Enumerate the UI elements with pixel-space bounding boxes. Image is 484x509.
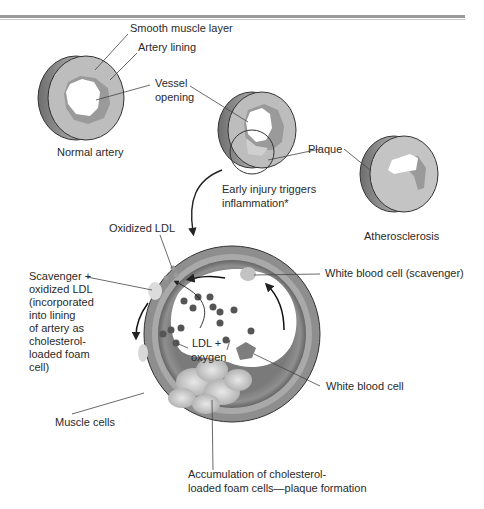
label-artery-lining: Artery lining (138, 41, 196, 54)
label-muscle-cells: Muscle cells (55, 416, 115, 429)
label-plaque: Plaque (308, 143, 342, 156)
label-scavenger-6: cholesterol- (29, 335, 86, 348)
label-accumulation-2: loaded foam cells—plaque formation (188, 482, 367, 495)
label-smooth-muscle-layer: Smooth muscle layer (130, 22, 233, 35)
label-normal-artery: Normal artery (57, 146, 124, 159)
label-early-injury-1: Early injury triggers (222, 183, 316, 196)
atherosclerosis-diagram (0, 0, 484, 509)
label-scavenger-1: Scavenger + (29, 270, 91, 283)
label-white-blood-cell: White blood cell (326, 380, 404, 393)
label-scavenger-3: (incorporated (29, 296, 94, 309)
label-oxidized-ldl: Oxidized LDL (109, 222, 175, 235)
white-blood-cell-scavenger (240, 267, 256, 281)
early-injury-artery-illustration (218, 92, 296, 174)
label-vessel-opening-1: Vessel (155, 77, 187, 90)
artery-cross-section (136, 246, 320, 422)
atherosclerosis-artery-illustration (360, 136, 438, 212)
label-ldl-oxygen-2: oxygen (191, 351, 226, 364)
label-scavenger-5: of artery as (29, 322, 84, 335)
label-scavenger-2: oxidized LDL (29, 283, 93, 296)
label-scavenger-7: loaded foam (29, 348, 90, 361)
label-vessel-opening-2: opening (155, 91, 194, 104)
label-atherosclerosis: Atherosclerosis (364, 230, 439, 243)
label-scavenger-4: into lining (29, 309, 75, 322)
label-ldl-oxygen-1: LDL + (192, 337, 221, 350)
label-scavenger-8: cell) (29, 361, 49, 374)
label-wbc-scavenger: White blood cell (scavenger) (325, 267, 464, 280)
label-accumulation-1: Accumulation of cholesterol- (188, 468, 326, 481)
label-early-injury-2: inflammation* (222, 197, 289, 210)
normal-artery-illustration (38, 56, 124, 140)
